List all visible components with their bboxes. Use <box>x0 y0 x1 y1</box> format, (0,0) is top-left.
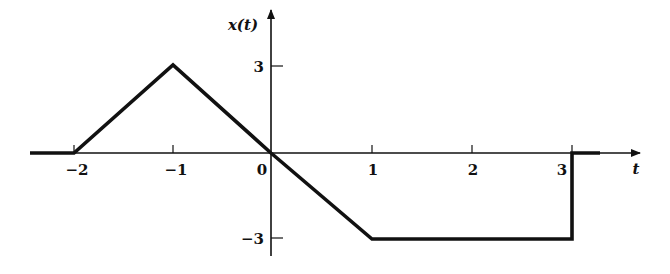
signal-plot: −2 −1 0 1 2 3 3 −3 x(t) t <box>0 0 670 274</box>
x-tick-label: 0 <box>257 161 267 179</box>
x-tick-label: −2 <box>65 161 88 179</box>
x-ticks <box>74 145 572 153</box>
signal-curve <box>30 65 600 239</box>
y-tick-label: −3 <box>241 230 264 248</box>
x-tick-label: 1 <box>368 161 378 179</box>
y-axis-label: x(t) <box>227 16 258 34</box>
x-tick-label: 2 <box>468 161 478 179</box>
x-tick-label: 3 <box>557 161 567 179</box>
y-ticks <box>271 66 283 238</box>
x-axis-label: t <box>633 160 640 178</box>
y-tick-label: 3 <box>254 58 264 76</box>
x-tick-label: −1 <box>164 161 187 179</box>
